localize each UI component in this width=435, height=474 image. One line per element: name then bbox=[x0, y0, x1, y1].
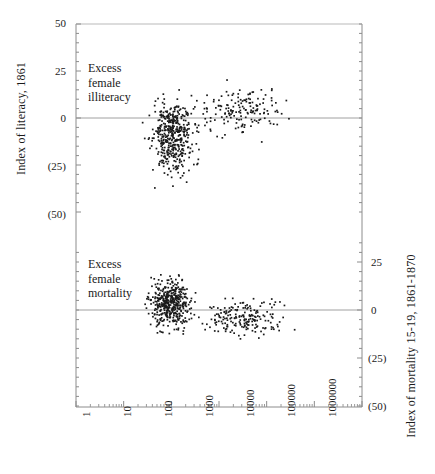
annotation-lower-line-3: mortality bbox=[88, 286, 132, 301]
x-tick-label-10: 10 bbox=[121, 406, 133, 417]
x-tick-label-100: 100 bbox=[162, 401, 174, 418]
x-tick-label-10000: 10000 bbox=[244, 390, 256, 418]
x-tick-label-100000: 100000 bbox=[285, 384, 297, 417]
left-tick-label-0: 0 bbox=[26, 112, 66, 124]
annotation-lower-line-1: Excess bbox=[88, 257, 132, 272]
x-tick-label-1000000: 1000000 bbox=[326, 379, 338, 418]
left-tick-label-25: 25 bbox=[26, 65, 66, 77]
right-tick-label-neg25: (25) bbox=[368, 352, 410, 364]
right-axis-ticks bbox=[357, 24, 362, 406]
annotation-upper-line-2: female bbox=[88, 76, 131, 91]
annotation-excess-female-illiteracy: Excess female illiteracy bbox=[88, 61, 131, 105]
annotation-upper-line-1: Excess bbox=[88, 61, 131, 76]
right-tick-label-neg50: (50) bbox=[368, 400, 410, 412]
scatter-points-literacy bbox=[142, 79, 290, 189]
scatter-points-mortality bbox=[144, 274, 295, 340]
annotation-excess-female-mortality: Excess female mortality bbox=[88, 257, 132, 301]
left-axis-ticks bbox=[76, 24, 81, 406]
x-tick-label-1000: 1000 bbox=[203, 395, 215, 417]
annotation-upper-line-3: illiteracy bbox=[88, 90, 131, 105]
left-tick-label-50: 50 bbox=[26, 17, 66, 29]
left-tick-label-neg25: (25) bbox=[26, 160, 66, 172]
x-tick-label-1: 1 bbox=[80, 412, 92, 418]
annotation-lower-line-2: female bbox=[88, 272, 132, 287]
left-tick-label-neg50: (50) bbox=[26, 208, 66, 220]
right-tick-label-25: 25 bbox=[371, 256, 413, 268]
right-tick-label-0: 0 bbox=[371, 304, 413, 316]
x-axis-ticks bbox=[76, 401, 362, 407]
scatter-figure: Index of literacy, 1861 Index of mortali… bbox=[0, 0, 435, 474]
